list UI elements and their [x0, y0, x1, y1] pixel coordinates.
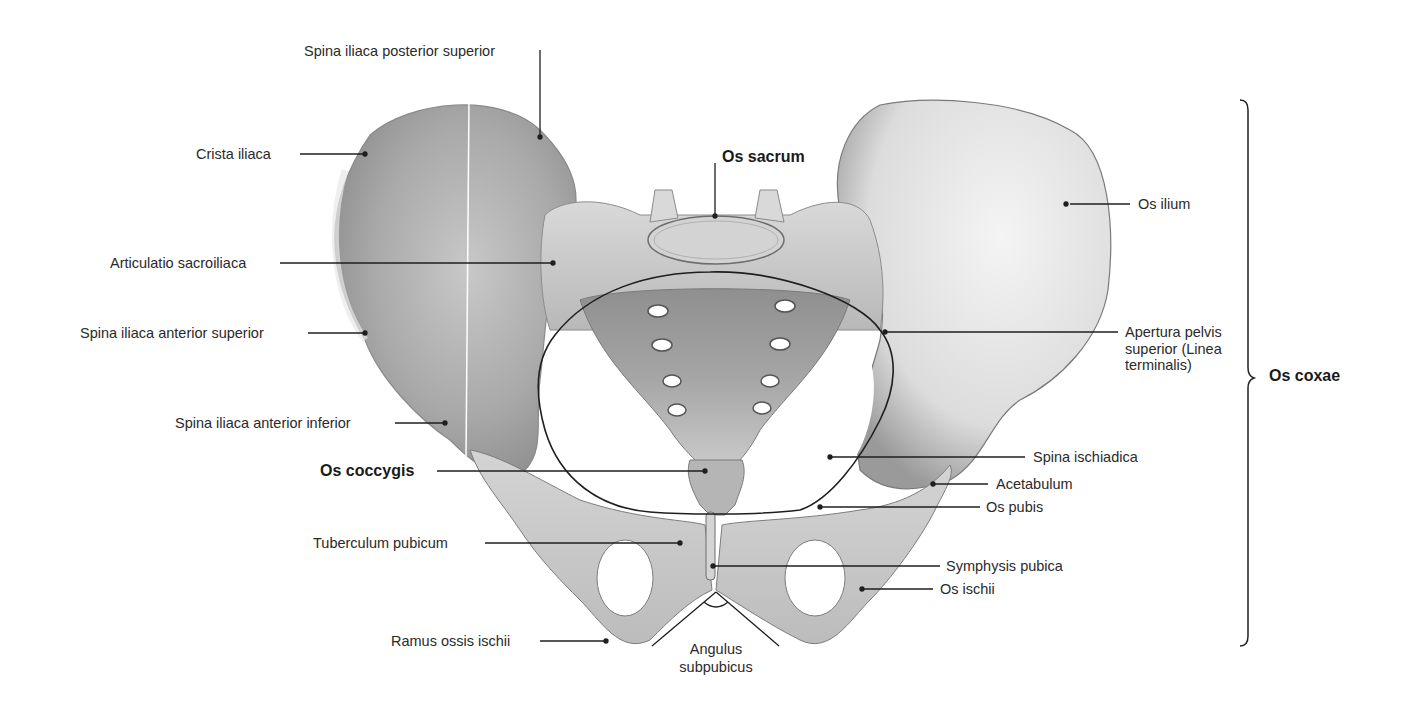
coccyx: [688, 460, 744, 515]
label-os-pubis: Os pubis: [986, 499, 1043, 516]
label-spina-ischiadica: Spina ischiadica: [1033, 449, 1138, 466]
label-spina-iliaca-posterior-superior: Spina iliaca posterior superior: [304, 43, 495, 60]
label-tuberculum-pubicum: Tuberculum pubicum: [313, 535, 448, 552]
label-os-coxae: Os coxae: [1269, 367, 1340, 384]
left-ilium-shape: [335, 105, 576, 473]
sacral-base: [648, 216, 784, 264]
label-os-ilium: Os ilium: [1138, 196, 1190, 213]
symphysis: [706, 512, 715, 580]
label-symphysis-pubica: Symphysis pubica: [946, 558, 1063, 575]
label-os-coccygis: Os coccygis: [320, 462, 414, 479]
label-spina-iliaca-anterior-inferior: Spina iliaca anterior inferior: [175, 415, 351, 432]
label-spina-iliaca-anterior-superior: Spina iliaca anterior superior: [80, 325, 264, 342]
pelvis-diagram: Spina iliaca posterior superior Crista i…: [0, 0, 1419, 715]
label-crista-iliaca: Crista iliaca: [196, 146, 271, 163]
left-pubis-ischium: [470, 450, 712, 644]
label-os-ischii: Os ischii: [940, 581, 995, 598]
label-angulus-subpubicus: Angulus subpubicus: [666, 640, 766, 676]
label-ramus-ossis-ischii: Ramus ossis ischii: [391, 633, 510, 650]
label-os-sacrum: Os sacrum: [722, 148, 805, 165]
os-coxae-brace: [1240, 100, 1254, 646]
label-acetabulum: Acetabulum: [996, 476, 1073, 493]
label-apertura-pelvis-superior: Apertura pelvis superior (Linea terminal…: [1125, 324, 1222, 374]
label-articulatio-sacroiliaca: Articulatio sacroiliaca: [110, 255, 246, 272]
